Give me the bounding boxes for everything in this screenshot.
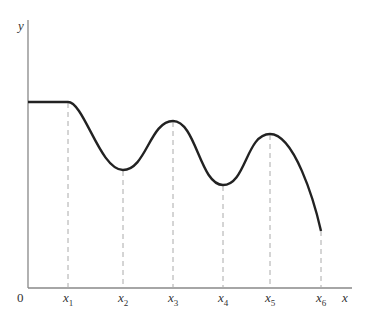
tick-x1: x1 xyxy=(63,290,73,308)
x-axis-label: x xyxy=(342,290,348,306)
tick-x3: x3 xyxy=(168,290,178,308)
y-axis-label: y xyxy=(18,18,24,34)
function-graph xyxy=(0,0,372,324)
tick-x6: x6 xyxy=(316,290,326,308)
dashed-guides xyxy=(68,103,321,288)
tick-x5: x5 xyxy=(265,290,275,308)
tick-x4: x4 xyxy=(218,290,228,308)
tick-x2: x2 xyxy=(118,290,128,308)
function-curve xyxy=(28,102,321,231)
origin-label: 0 xyxy=(17,290,24,306)
